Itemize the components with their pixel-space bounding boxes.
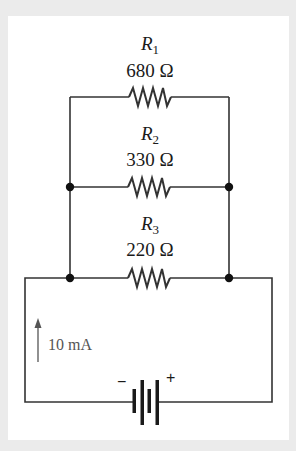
r2-resistor-icon bbox=[128, 178, 170, 196]
r3-name: R bbox=[141, 213, 153, 234]
current-label: 10 mA bbox=[48, 336, 92, 354]
node-right-r2 bbox=[225, 183, 233, 191]
r1-name-label: R1 bbox=[141, 34, 159, 56]
battery-positive-sign: + bbox=[166, 370, 175, 386]
r2-value-label: 330 Ω bbox=[126, 150, 173, 169]
battery-negative-sign: − bbox=[117, 374, 126, 390]
r2-subscript: 2 bbox=[153, 132, 160, 147]
node-left-r3 bbox=[66, 274, 74, 282]
current-arrow-head-icon bbox=[35, 318, 42, 328]
r2-name-label: R2 bbox=[141, 124, 159, 146]
battery-icon bbox=[133, 380, 160, 425]
r2-name: R bbox=[141, 123, 153, 144]
r1-resistor-icon bbox=[129, 88, 171, 106]
r3-name-label: R3 bbox=[141, 214, 159, 236]
r1-subscript: 1 bbox=[153, 42, 160, 57]
r3-value-label: 220 Ω bbox=[126, 240, 173, 259]
r3-resistor-icon bbox=[128, 269, 170, 287]
r1-value-label: 680 Ω bbox=[126, 61, 173, 80]
node-left-r2 bbox=[66, 183, 74, 191]
r1-name: R bbox=[141, 33, 153, 54]
r3-subscript: 3 bbox=[153, 222, 160, 237]
node-right-r3 bbox=[225, 274, 233, 282]
